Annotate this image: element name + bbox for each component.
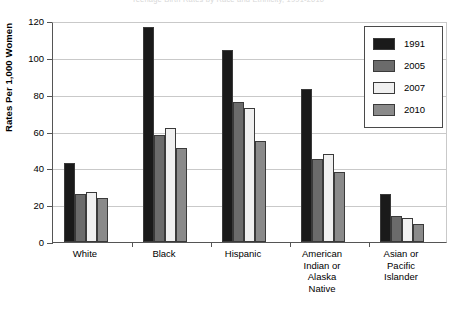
bar [402, 218, 413, 242]
bar [154, 135, 165, 242]
bar [176, 148, 187, 242]
y-axis-tick-label: 100 [28, 54, 44, 64]
x-axis-category-label: Black [152, 248, 175, 260]
bar [222, 50, 233, 242]
legend-item: 2010 [365, 99, 442, 121]
y-axis-tick-label: 20 [33, 201, 44, 211]
bar [64, 163, 75, 242]
cut-off-title-text: Teenage Birth Rates by Race and Ethnicit… [132, 0, 324, 4]
x-axis-category-label: White [73, 248, 97, 260]
legend-swatch [373, 38, 395, 50]
bar [86, 192, 97, 242]
bar [255, 141, 266, 242]
bar [75, 194, 86, 242]
bar [323, 154, 334, 242]
x-axis-category-label: Hispanic [225, 248, 261, 260]
bar-group [301, 22, 345, 242]
y-axis-tick-label: 60 [33, 128, 44, 138]
y-axis-tick-label: 40 [33, 165, 44, 175]
legend: 1991200520072010 [364, 26, 443, 128]
bar-group [64, 22, 108, 242]
bar [334, 172, 345, 242]
y-axis-tick-label: 0 [39, 238, 44, 248]
y-axis-title: Rates Per 1,000 Women [3, 23, 14, 132]
cut-off-title-strip: Teenage Birth Rates by Race and Ethnicit… [0, 0, 458, 7]
x-axis-tick [132, 242, 133, 247]
legend-item: 2007 [365, 77, 442, 99]
bar [143, 27, 154, 242]
legend-swatch [373, 60, 395, 72]
legend-label: 2007 [404, 83, 425, 93]
bar [391, 216, 402, 242]
bar-chart-figure: Teenage Birth Rates by Race and Ethnicit… [0, 0, 458, 311]
x-axis-tick [369, 242, 370, 247]
bar [244, 108, 255, 242]
legend-label: 2005 [404, 61, 425, 71]
bar [301, 89, 312, 242]
y-axis-tick-label: 120 [28, 17, 44, 27]
x-axis-category-label: Asian or Pacific Islander [384, 248, 419, 283]
legend-item: 2005 [365, 55, 442, 77]
y-axis-tick-label: 80 [33, 91, 44, 101]
legend-label: 2010 [404, 105, 425, 115]
x-axis-tick [290, 242, 291, 247]
x-axis-tick [211, 242, 212, 247]
y-axis-tick [47, 243, 53, 244]
bar [97, 198, 108, 242]
legend-swatch [373, 82, 395, 94]
x-axis-category-label: American Indian or Alaska Native [302, 248, 342, 294]
bar [380, 194, 391, 242]
bar [233, 102, 244, 242]
legend-swatch [373, 104, 395, 116]
bar [312, 159, 323, 242]
legend-label: 1991 [404, 39, 425, 49]
bar [165, 128, 176, 242]
legend-item: 1991 [365, 33, 442, 55]
bar-group [143, 22, 187, 242]
bar-group [222, 22, 266, 242]
bar [413, 224, 424, 242]
